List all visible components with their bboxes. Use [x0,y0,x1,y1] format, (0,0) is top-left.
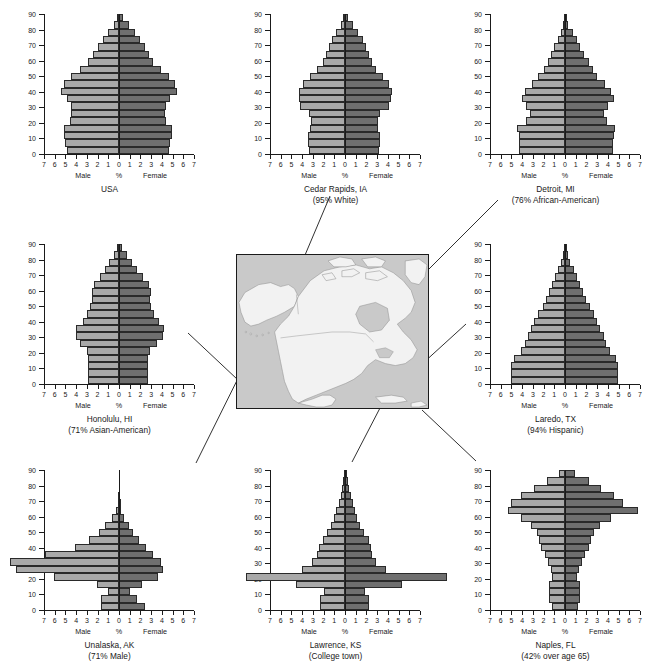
x-tick-14 [640,611,641,615]
x-tick-12 [399,611,400,615]
chart-title-naples: Naples, FL [448,640,657,651]
bar-female-45-49 [119,80,175,87]
x-tick-5 [544,385,545,389]
bar-female-15-19 [565,355,616,362]
chart-subtitle-naples: (42% over age 65) [448,651,657,662]
bar-female-45-49 [119,310,154,317]
plot-area-detroit: 0102030405060708090765432101234567Male%F… [448,6,657,206]
x-tick-label-1: 6 [279,161,283,168]
y-tick-label-60: 60 [22,287,36,294]
x-tick-12 [173,385,174,389]
x-tick-0 [270,611,271,615]
x-tick-label-5: 2 [542,161,546,168]
bar-male-10-14 [308,132,346,139]
bar-female-60-64 [119,288,151,295]
x-tick-6 [554,385,555,389]
bar-female-60-64 [345,58,372,65]
bar-female-25-29 [565,110,604,117]
x-tick-5 [324,155,325,159]
center-line-detroit [565,14,566,154]
x-tick-label-8: 1 [128,161,132,168]
bar-female-75-79 [345,36,363,43]
bar-male-60-64 [549,288,565,295]
x-tick-label-0: 7 [488,161,492,168]
x-tick-10 [377,611,378,615]
bar-female-40-44 [565,318,597,325]
y-tick-label-10: 10 [248,135,262,142]
chart-subtitle-detroit: (76% African-American) [448,195,657,206]
x-tick-4 [87,611,88,615]
x-tick-label-0: 7 [488,617,492,624]
x-tick-label-0: 7 [42,617,46,624]
bar-female-40-44 [119,318,159,325]
x-tick-7 [119,155,120,159]
y-tick-label-0: 0 [248,607,262,614]
y-tick-label-50: 50 [468,303,482,310]
bar-female-20-24 [565,573,577,580]
male-axis-label-honolulu: Male [75,402,91,409]
y-tick-label-20: 20 [248,119,262,126]
bar-male-10-14 [549,588,565,595]
x-tick-label-4: 3 [531,617,535,624]
bar-male-45-49 [539,536,565,543]
y-tick-label-30: 30 [248,560,262,567]
chart-caption-detroit: Detroit, MI(76% African-American) [448,184,657,206]
chart-subtitle-lawrence: (College town) [228,651,443,662]
bar-female-20-24 [119,347,150,354]
bar-male-45-49 [538,310,565,317]
x-tick-label-12: 5 [171,617,175,624]
bar-female-65-69 [119,51,149,58]
x-tick-label-7: 0 [563,617,567,624]
y-tick-label-60: 60 [22,57,36,64]
x-tick-11 [162,155,163,159]
bar-female-30-34 [565,332,604,339]
bar-male-20-24 [521,347,565,354]
y-tick-label-60: 60 [468,287,482,294]
x-tick-11 [162,611,163,615]
x-tick-label-8: 1 [128,617,132,624]
bar-female-5-9 [565,595,580,602]
y-tick-label-20: 20 [22,575,36,582]
y-tick-label-80: 80 [248,26,262,33]
y-tick-label-10: 10 [22,365,36,372]
x-tick-12 [619,385,620,389]
x-tick-label-1: 6 [499,617,503,624]
bar-female-20-24 [565,117,607,124]
bar-female-10-14 [565,588,580,595]
bar-male-70-74 [555,273,565,280]
bar-male-0-4 [519,147,565,154]
x-tick-5 [98,155,99,159]
y-tick-label-70: 70 [468,272,482,279]
x-tick-label-9: 2 [584,391,588,398]
y-tick-label-0: 0 [22,151,36,158]
bar-male-50-54 [537,529,565,536]
x-tick-label-13: 6 [181,391,185,398]
x-tick-label-14: 7 [192,617,196,624]
bar-male-5-9 [88,369,119,376]
bar-male-80-84 [109,259,119,266]
bar-female-30-34 [119,332,163,339]
bar-male-5-9 [511,369,565,376]
x-tick-9 [140,155,141,159]
x-tick-label-0: 7 [268,161,272,168]
bar-female-5-9 [345,139,380,146]
x-tick-label-5: 2 [542,391,546,398]
x-tick-label-5: 2 [542,617,546,624]
bar-female-30-34 [565,102,608,109]
bar-male-60-64 [112,514,120,521]
x-tick-label-4: 3 [531,391,535,398]
percent-axis-label-unalaska: % [116,628,122,635]
x-tick-label-14: 7 [418,617,422,624]
x-tick-label-10: 3 [149,391,153,398]
x-tick-label-10: 3 [149,161,153,168]
x-tick-4 [533,155,534,159]
bar-female-30-34 [119,558,161,565]
bar-female-0-4 [345,603,369,610]
y-tick-label-20: 20 [468,119,482,126]
x-tick-label-12: 5 [397,617,401,624]
y-tick-label-30: 30 [468,560,482,567]
x-tick-label-3: 4 [74,617,78,624]
y-tick-label-10: 10 [468,365,482,372]
x-tick-label-3: 4 [74,161,78,168]
bar-female-35-39 [119,95,170,102]
